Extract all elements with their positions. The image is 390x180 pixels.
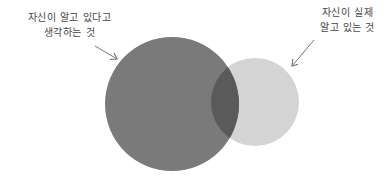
arrow-right: [292, 40, 314, 66]
arrow-left: [95, 46, 117, 59]
venn-diagram: [0, 0, 390, 180]
